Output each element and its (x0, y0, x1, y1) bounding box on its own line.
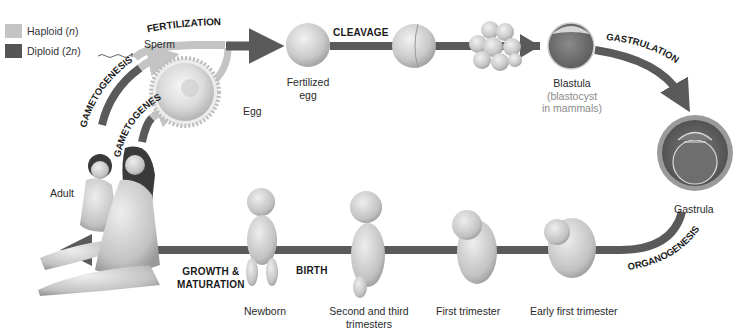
cleavage-label: CLEAVAGE (333, 27, 389, 38)
birth-label: BIRTH (296, 265, 328, 276)
fertilized-egg (286, 23, 330, 67)
gastrula (657, 115, 733, 191)
second-third-trimesters-label: Second and third trimesters (323, 305, 415, 330)
early-first-trimester-embryo (544, 218, 596, 278)
first-trimester-fetus (452, 210, 497, 284)
blastula-title: Blastula (540, 77, 604, 90)
adult-label: Adult (50, 187, 74, 200)
fertilized-egg-label: Fertilized egg (284, 76, 332, 101)
newborn-baby (246, 188, 278, 286)
blastula-note-line1: (blastocyst (540, 90, 604, 103)
growth-label-line1: GROWTH & (177, 265, 245, 278)
life-cycle-diagram: GAMETOGENESIS GAMETOGENESIS FERTILIZATIO… (0, 0, 751, 335)
first-trimester-label: First trimester (436, 305, 500, 318)
sperm-label: Sperm (144, 38, 175, 51)
gastrula-label: Gastrula (674, 203, 714, 216)
fertilized-egg-line1: Fertilized (284, 76, 332, 89)
early-first-trimester-label: Early first trimester (530, 305, 618, 318)
morula (469, 21, 522, 71)
growth-label-line2: MATURATION (177, 278, 245, 291)
blastula-label: Blastula (blastocyst in mammals) (540, 77, 604, 115)
egg-label: Egg (243, 105, 262, 118)
second-third-line2: trimesters (323, 318, 415, 331)
two-cell-embryo (392, 24, 436, 68)
newborn-label: Newborn (244, 305, 286, 318)
blastula-note-line2: in mammals) (540, 102, 604, 115)
second-third-trimester-fetus (350, 191, 385, 298)
adult-couple (38, 147, 160, 296)
egg-cell (151, 58, 219, 126)
growth-maturation-label: GROWTH & MATURATION (177, 265, 245, 291)
fertilized-egg-line2: egg (284, 89, 332, 102)
blastula (548, 23, 594, 69)
gametogenesis-female-label: GAMETOGENESIS (0, 0, 163, 158)
second-third-line1: Second and third (323, 305, 415, 318)
fertilization-label: FERTILIZATION (146, 16, 221, 35)
